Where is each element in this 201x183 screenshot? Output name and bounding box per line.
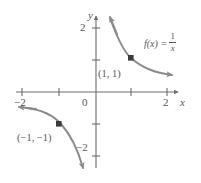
x-tick-label-2: 2: [163, 97, 169, 108]
y-tick-label-2: 2: [80, 22, 86, 33]
function-fraction: 1 x: [169, 32, 176, 53]
data-point-marker-1-1: [128, 55, 134, 61]
function-equation-prefix: f(x) =: [144, 39, 167, 49]
y-axis-label: y: [88, 10, 93, 21]
function-equation-label: f(x) = 1 x: [144, 33, 176, 54]
reciprocal-function-figure: y x 0 −2 2 2 −2 (1, 1) (−1, −1) f(x) = 1…: [0, 0, 201, 183]
x-tick-label-neg2: −2: [14, 97, 26, 108]
y-tick-label-neg2: −2: [76, 142, 88, 153]
point-label-1-1: (1, 1): [98, 69, 121, 80]
plot-canvas: [0, 0, 201, 183]
point-label-neg1-neg1: (−1, −1): [17, 133, 52, 144]
x-axis-label: x: [180, 97, 185, 108]
data-point-marker-neg1-neg1: [56, 121, 62, 127]
function-denominator: x: [170, 43, 176, 53]
curve-branch-positive-arrow-start: [110, 17, 117, 34]
function-numerator: 1: [169, 32, 176, 42]
origin-label: 0: [82, 97, 88, 108]
